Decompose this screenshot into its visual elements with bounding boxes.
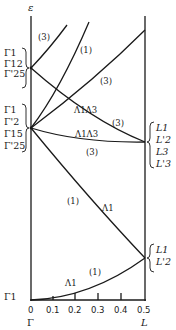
degeneracy-label: (1): [89, 267, 101, 277]
degeneracy-label: (1): [80, 45, 92, 55]
l-upper-group: L1 L'2 L3 L'3: [156, 122, 171, 170]
symmetry-label: Λ1Λ3: [74, 105, 97, 115]
gamma-middle-group: Γ1 Γ'2 Γ15 Γ'25: [4, 104, 25, 152]
band-lambda1-lowest: [31, 258, 145, 300]
symmetry-label: Λ1Λ3: [75, 129, 98, 139]
l-point-label: L: [141, 318, 148, 328]
degeneracy-label: (1): [67, 196, 79, 206]
l-lower-group: L1 L'2: [156, 244, 171, 268]
degeneracy-label: (3): [100, 76, 112, 86]
gamma-bottom-label: Γ1: [4, 292, 17, 302]
tick-label: 0.1: [46, 305, 60, 315]
tick-label: 0.4: [114, 305, 128, 315]
degeneracy-label: (3): [86, 147, 98, 157]
tick-label: 0.5: [137, 305, 151, 315]
gamma-top-group: Γ1 Γ12 Γ'25: [4, 48, 25, 80]
degeneracy-label: (3): [112, 118, 124, 128]
tick-label: 0.2: [68, 305, 82, 315]
degeneracy-label: (3): [38, 32, 50, 42]
gamma-point-label: Γ: [27, 318, 34, 328]
brace-l-lower: [147, 244, 154, 272]
symmetry-label: Λ1: [102, 203, 114, 213]
tick-label: 0.3: [91, 305, 105, 315]
tick-label: 0: [28, 305, 33, 315]
brace-l-upper: [147, 122, 154, 168]
symmetry-label: Λ1: [65, 278, 77, 288]
epsilon-label: ε: [28, 3, 33, 13]
